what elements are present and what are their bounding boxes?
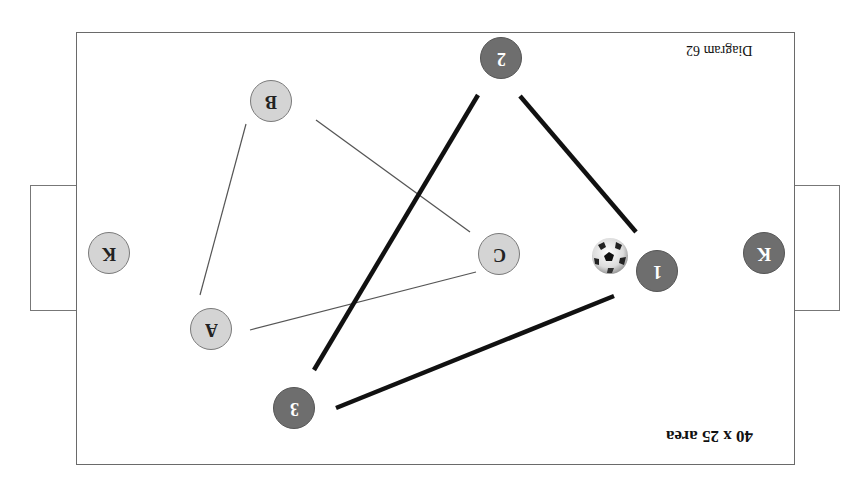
dark-player-k: K — [743, 232, 785, 274]
light-player-b: B — [250, 80, 292, 122]
dark-player-2: 2 — [480, 37, 522, 79]
line-b-c — [316, 120, 470, 232]
line-a-b — [200, 124, 246, 295]
light-team-lines — [200, 120, 476, 330]
dark-player-3: 3 — [273, 387, 315, 429]
light-player-a: A — [190, 308, 232, 350]
light-player-k: K — [88, 232, 130, 274]
diagram-number-label: Diagram 62 — [686, 42, 752, 58]
line-c-a — [250, 272, 476, 330]
line-1-2 — [520, 96, 636, 232]
soccer-ball-icon — [590, 236, 630, 276]
area-size-title: 40 x 25 area — [666, 426, 753, 446]
dark-team-lines — [314, 95, 636, 408]
dark-player-1: 1 — [636, 250, 678, 292]
line-3-1 — [336, 296, 614, 408]
diagram-canvas: K B A C 2 1 3 K Diagram 62 40 x 25 area — [0, 0, 863, 492]
light-player-c: C — [478, 233, 520, 275]
pass-lines — [0, 0, 863, 492]
